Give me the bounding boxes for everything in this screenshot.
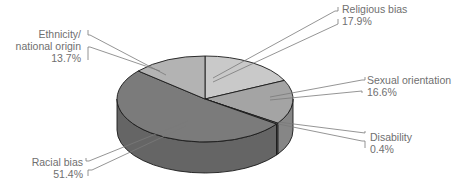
- label-religious-bias: Religious bias 17.9%: [342, 3, 407, 27]
- label-ethnicity-name-2: national origin: [16, 40, 81, 52]
- label-ethnicity-name-1: Ethnicity/: [16, 28, 81, 40]
- label-religious-name: Religious bias: [342, 3, 407, 15]
- label-disability: Disability 0.4%: [370, 131, 412, 155]
- label-religious-pct: 17.9%: [342, 15, 407, 27]
- pie-body: [117, 56, 293, 173]
- label-sexual-orientation: Sexual orientation 16.6%: [367, 74, 451, 98]
- label-ethnicity-pct: 13.7%: [16, 52, 81, 64]
- label-racial-pct: 51.4%: [32, 168, 83, 180]
- label-racial-name: Racial bias: [32, 156, 83, 168]
- label-sexual-name: Sexual orientation: [367, 74, 451, 86]
- label-ethnicity: Ethnicity/ national origin 13.7%: [16, 28, 81, 64]
- label-racial-bias: Racial bias 51.4%: [32, 156, 83, 180]
- label-disability-name: Disability: [370, 131, 412, 143]
- label-disability-pct: 0.4%: [370, 143, 412, 155]
- label-sexual-pct: 16.6%: [367, 86, 451, 98]
